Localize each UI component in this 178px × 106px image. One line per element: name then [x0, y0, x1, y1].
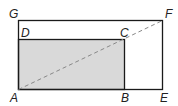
label-b: B — [121, 91, 129, 105]
geometry-diagram: G F D C A B E — [0, 0, 178, 106]
label-d: D — [21, 26, 30, 40]
label-e: E — [160, 91, 169, 105]
label-a: A — [9, 91, 18, 105]
label-g: G — [9, 7, 18, 21]
label-f: F — [165, 7, 173, 21]
label-c: C — [120, 26, 129, 40]
